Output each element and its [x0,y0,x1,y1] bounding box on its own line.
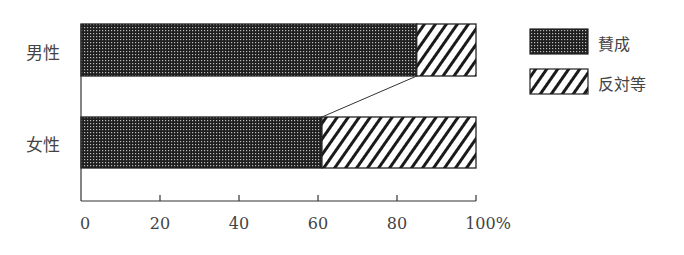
x-tick-80: 80 [387,214,407,233]
bar-segment [417,24,476,76]
legend-swatches [530,29,588,94]
bar-segment [322,117,476,168]
connector-line [322,76,417,117]
legend-label-oppose: 反対等 [598,71,646,95]
x-tick-20: 20 [150,214,170,233]
x-tick-0: 0 [80,214,90,233]
legend-swatch-oppose [530,69,588,94]
legend-label-agree: 賛成 [598,31,630,55]
x-tick-40: 40 [229,214,249,233]
bar-segment [81,24,417,76]
category-label-male: 男性 [26,39,60,64]
bars-group [81,24,476,168]
legend-swatch-agree [530,29,588,54]
bar-segment [81,117,322,168]
x-tick-60: 60 [308,214,328,233]
category-label-female: 女性 [26,131,60,156]
chart-canvas [0,0,684,255]
x-tick-100: 100% [465,214,511,233]
